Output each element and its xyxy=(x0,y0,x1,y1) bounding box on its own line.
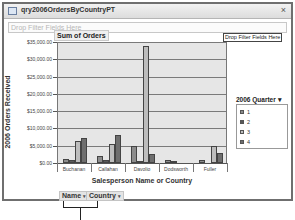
x-divider xyxy=(57,163,58,172)
chart-plot-area[interactable] xyxy=(57,42,227,163)
legend-field-dropdown[interactable]: 2006 Quarter ▾ xyxy=(236,96,282,104)
x-divider xyxy=(159,163,160,172)
legend-label: 3 xyxy=(247,129,250,135)
legend-label: 4 xyxy=(247,139,250,145)
x-axis-line xyxy=(57,163,228,164)
y-tick-label: $35,000.00 xyxy=(14,39,52,45)
legend-title: 2006 Quarter xyxy=(236,96,276,103)
gridline xyxy=(58,42,226,43)
x-divider xyxy=(125,163,126,172)
gridline xyxy=(58,94,226,95)
legend-swatch xyxy=(240,140,244,144)
country-field-label: Country xyxy=(89,192,116,199)
legend-item-2[interactable]: 2 xyxy=(240,119,250,125)
bar-davolio-q3[interactable] xyxy=(143,46,149,163)
bar-davolio-q4[interactable] xyxy=(149,154,155,163)
y-tick-label: $5,000.00 xyxy=(14,143,52,149)
x-category-label: Dodsworth xyxy=(159,166,193,172)
legend-item-3[interactable]: 3 xyxy=(240,129,250,135)
y-tick-label: $15,000.00 xyxy=(14,108,52,114)
bar-fuller-q4[interactable] xyxy=(217,153,223,163)
legend-swatch xyxy=(240,120,244,124)
x-axis-title: Salesperson Name or Country xyxy=(57,177,227,184)
bar-buchanan-q4[interactable] xyxy=(81,138,87,163)
y-tick-label: $10,000.00 xyxy=(14,125,52,131)
callout-line xyxy=(80,207,81,220)
legend-label: 1 xyxy=(247,109,250,115)
filter-drop-zone[interactable]: Drop Filter Fields Here xyxy=(8,22,287,33)
gridline xyxy=(58,128,226,129)
country-field-button[interactable]: Country▾ xyxy=(86,191,124,201)
legend-swatch xyxy=(240,130,244,134)
chevron-down-icon[interactable]: ▾ xyxy=(118,193,121,199)
chevron-down-icon: ▾ xyxy=(278,96,282,103)
x-divider xyxy=(227,163,228,172)
gridline xyxy=(58,59,226,60)
y-axis-title: 2006 Orders Received xyxy=(0,62,14,162)
y-tick-label: $0.00 xyxy=(14,160,52,166)
y-tick-label: $20,000.00 xyxy=(14,91,52,97)
x-category-label: Davolio xyxy=(125,166,159,172)
name-field-button[interactable]: Name▾ xyxy=(59,191,89,201)
y-tick-label: $30,000.00 xyxy=(14,56,52,62)
gridline xyxy=(58,77,226,78)
x-divider xyxy=(91,163,92,172)
x-divider xyxy=(193,163,194,172)
x-category-label: Fuller xyxy=(193,166,227,172)
title-bar[interactable]: qry2006OrdersByCountryPT × xyxy=(4,4,291,19)
callout-line xyxy=(97,201,98,208)
x-category-label: Callahan xyxy=(91,166,125,172)
chart-legend: 1234 xyxy=(236,104,288,149)
gridline xyxy=(58,111,226,112)
drop-filter-fields-button[interactable]: Drop Filter Fields Here xyxy=(223,33,282,42)
legend-item-4[interactable]: 4 xyxy=(240,139,250,145)
bar-callahan-q4[interactable] xyxy=(115,135,121,163)
data-field-button[interactable]: Sum of Orders xyxy=(54,30,109,41)
legend-label: 2 xyxy=(247,119,250,125)
legend-swatch xyxy=(240,110,244,114)
legend-item-1[interactable]: 1 xyxy=(240,109,250,115)
close-button[interactable]: × xyxy=(281,5,286,15)
pivotchart-icon xyxy=(8,7,17,15)
window-title: qry2006OrdersByCountryPT xyxy=(21,6,115,13)
x-category-label: Buchanan xyxy=(57,166,91,172)
name-field-label: Name xyxy=(62,192,81,199)
y-tick-label: $25,000.00 xyxy=(14,74,52,80)
